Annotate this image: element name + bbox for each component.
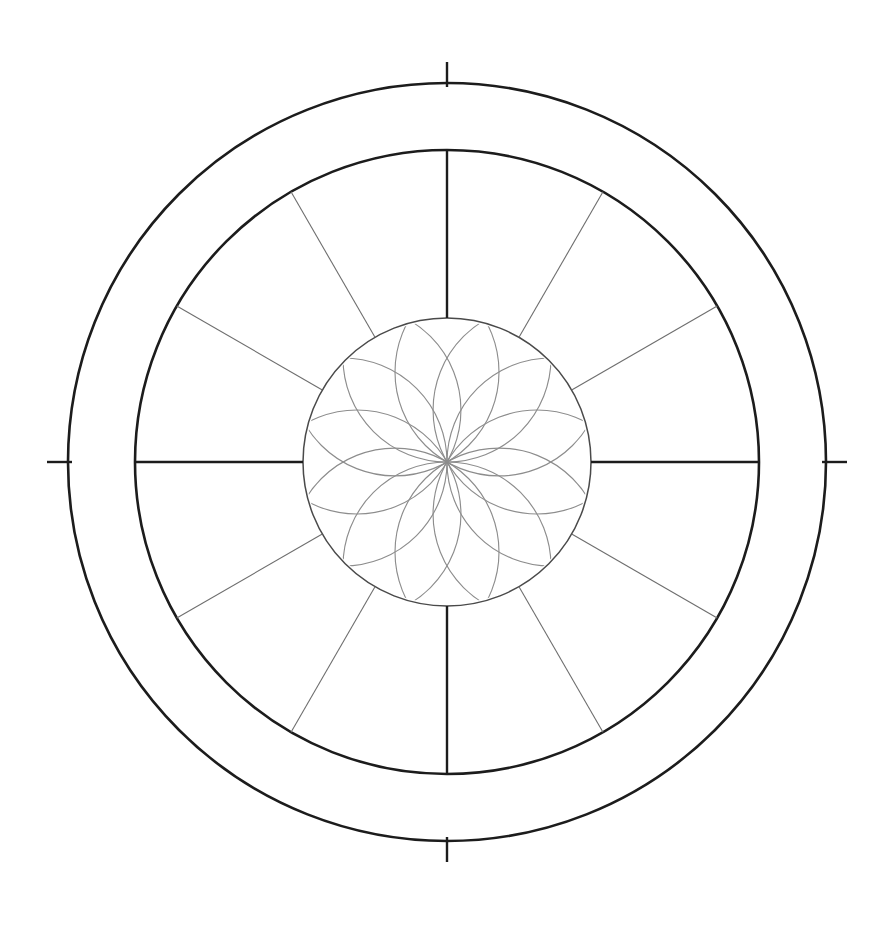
cusp-8 [572,534,717,618]
cusp-12 [177,534,322,618]
cusp-3 [291,192,375,337]
chart-wheel-canvas [0,0,895,936]
cusp-11 [291,587,375,732]
astrological-chart-wheel [0,0,895,936]
cusp-6 [572,306,717,390]
cusp-9 [519,587,603,732]
cusp-2 [177,306,322,390]
cusp-5 [519,192,603,337]
